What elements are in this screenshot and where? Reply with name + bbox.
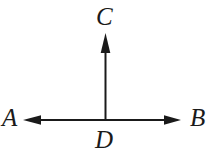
point-label-d: D xyxy=(95,127,113,152)
geometry-figure: B through D --> C --> A B C D xyxy=(0,0,219,157)
point-label-a: A xyxy=(2,105,17,130)
point-label-b: B xyxy=(190,105,205,130)
point-label-c: C xyxy=(96,4,113,29)
ray-DC-arrowhead xyxy=(101,33,111,53)
ray-DA-arrowhead xyxy=(23,115,41,125)
ray-DB-arrowhead xyxy=(164,115,181,125)
